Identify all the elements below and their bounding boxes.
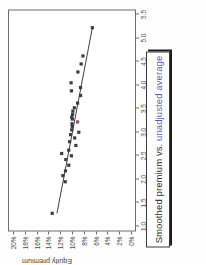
y-tick-mark xyxy=(84,231,85,234)
y-tick-mark xyxy=(48,231,49,234)
y-tick-label: 8% xyxy=(80,236,87,261)
y-tick-label: 6% xyxy=(92,236,99,261)
y-tick-label: 20% xyxy=(10,236,17,261)
y-tick-mark xyxy=(60,231,61,234)
y-tick-mark xyxy=(25,231,26,234)
y-tick-mark xyxy=(37,231,38,234)
y-tick-label: 0% xyxy=(128,236,135,261)
y-axis-label: Equity premium xyxy=(22,256,72,265)
y-tick-mark xyxy=(131,231,132,234)
y-tick-mark xyxy=(96,231,97,234)
y-tick-label: 2% xyxy=(116,236,123,261)
y-tick-mark xyxy=(72,231,73,234)
y-tick-mark xyxy=(119,231,120,234)
y-tick-mark xyxy=(13,231,14,234)
y-tick-mark xyxy=(107,231,108,234)
y-tick-label: 4% xyxy=(104,236,111,261)
